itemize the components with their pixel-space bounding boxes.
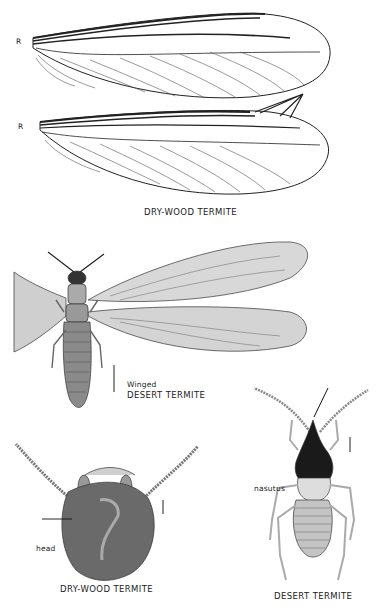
caption-winged: Winged bbox=[127, 380, 156, 389]
label-head: head bbox=[36, 544, 56, 553]
label-nasutus: nasutus bbox=[254, 484, 285, 493]
termite-illustrations bbox=[0, 0, 384, 615]
vein-label-r-hindwing: R bbox=[18, 122, 23, 131]
drywood-forewing bbox=[33, 13, 330, 98]
winged-desert-termite bbox=[14, 242, 308, 408]
illustration-plate: R R DRY-WOOD TERMITE Winged DESERT TERMI… bbox=[0, 0, 384, 615]
caption-desert-termite-winged: DESERT TERMITE bbox=[127, 390, 205, 400]
drywood-head bbox=[16, 444, 198, 580]
caption-drywood-wings: DRY-WOOD TERMITE bbox=[144, 207, 237, 217]
caption-drywood-head: DRY-WOOD TERMITE bbox=[60, 584, 153, 594]
drywood-hindwing bbox=[40, 94, 329, 194]
vein-label-r-forewing: R bbox=[16, 37, 21, 46]
caption-desert-termite: DESERT TERMITE bbox=[274, 591, 352, 601]
